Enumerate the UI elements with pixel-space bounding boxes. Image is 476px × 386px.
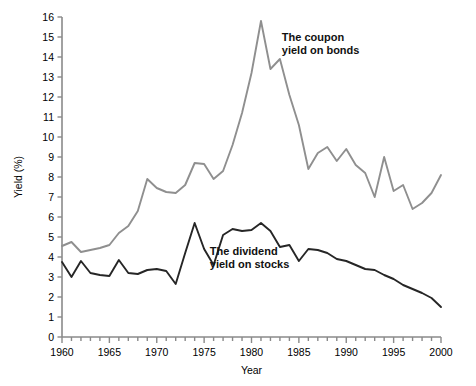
x-tick-label: 1990 xyxy=(335,346,359,358)
y-tick-label: 5 xyxy=(48,231,54,243)
stock-series-label-line2: yield on stocks xyxy=(210,258,289,270)
y-tick-label: 4 xyxy=(48,251,54,263)
chart-background xyxy=(0,0,476,386)
chart-container: 0123456789101112131415161960196519701975… xyxy=(0,0,476,386)
x-tick-label: 1970 xyxy=(145,346,169,358)
y-tick-label: 13 xyxy=(42,71,54,83)
bond-series-label-line2: yield on bonds xyxy=(282,44,360,56)
x-tick-label: 1995 xyxy=(382,346,406,358)
y-tick-label: 12 xyxy=(42,91,54,103)
y-tick-label: 14 xyxy=(42,51,54,63)
x-tick-label: 1975 xyxy=(192,346,216,358)
yield-chart: 0123456789101112131415161960196519701975… xyxy=(0,0,476,386)
y-axis-title: Yield (%) xyxy=(12,156,24,198)
y-tick-label: 15 xyxy=(42,31,54,43)
stock-series-label: The dividend xyxy=(210,245,278,257)
x-axis-title: Year xyxy=(241,364,263,376)
y-tick-label: 11 xyxy=(43,111,54,123)
y-tick-label: 8 xyxy=(48,171,54,183)
x-tick-label: 2000 xyxy=(429,346,453,358)
y-tick-label: 0 xyxy=(48,331,54,343)
y-tick-label: 1 xyxy=(48,311,54,323)
x-tick-label: 1980 xyxy=(240,346,264,358)
y-tick-label: 6 xyxy=(48,211,54,223)
x-tick-label: 1965 xyxy=(98,346,122,358)
y-tick-label: 3 xyxy=(48,271,54,283)
x-tick-label: 1985 xyxy=(287,346,311,358)
x-tick-label: 1960 xyxy=(50,346,74,358)
y-tick-label: 10 xyxy=(42,131,54,143)
bond-series-label: The coupon xyxy=(282,31,345,43)
y-tick-label: 2 xyxy=(48,291,54,303)
y-tick-label: 16 xyxy=(42,11,54,23)
y-tick-label: 7 xyxy=(48,191,54,203)
y-tick-label: 9 xyxy=(48,151,54,163)
